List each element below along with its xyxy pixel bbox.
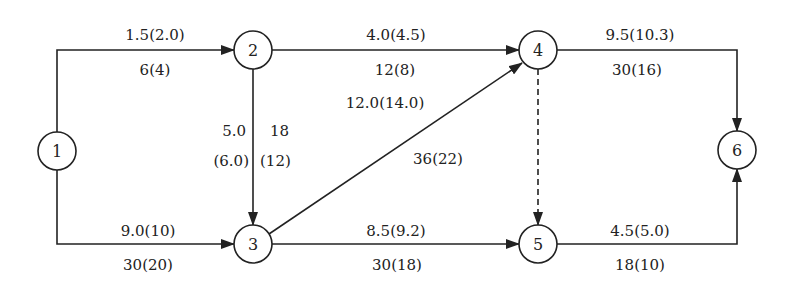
edge-5-6: 4.5(5.0) 18(10) bbox=[557, 169, 737, 274]
edge-2-4-top-label: 4.0(4.5) bbox=[366, 26, 425, 44]
edge-1-3: 9.0(10) 30(20) bbox=[57, 170, 234, 274]
edge-3-4-top-label: 12.0(14.0) bbox=[346, 94, 425, 112]
edge-2-4-bottom-label: 12(8) bbox=[375, 61, 415, 79]
edge-3-5: 8.5(9.2) 30(18) bbox=[272, 222, 519, 274]
edge-2-4: 4.0(4.5) 12(8) bbox=[272, 26, 519, 79]
node-1: 1 bbox=[38, 132, 76, 170]
edge-1-2-bottom-label: 6(4) bbox=[140, 61, 171, 79]
edge-4-6-bottom-label: 30(16) bbox=[612, 61, 662, 79]
edge-2-3-left-bottom-label: (6.0) bbox=[213, 152, 249, 170]
node-3-label: 3 bbox=[248, 235, 258, 254]
edge-2-3-right-top-label: 18 bbox=[270, 122, 289, 140]
edge-4-6-top-label: 9.5(10.3) bbox=[606, 26, 675, 44]
node-4-label: 4 bbox=[533, 41, 543, 60]
edge-5-6-bottom-label: 18(10) bbox=[615, 256, 665, 274]
node-2-label: 2 bbox=[248, 41, 258, 60]
edge-1-3-top-label: 9.0(10) bbox=[121, 222, 176, 240]
edge-3-4-bottom-label: 36(22) bbox=[413, 150, 463, 168]
node-3: 3 bbox=[234, 225, 272, 263]
edge-2-3-left-top-label: 5.0 bbox=[222, 122, 246, 140]
edge-1-2: 1.5(2.0) 6(4) bbox=[57, 26, 234, 132]
edge-4-6: 9.5(10.3) 30(16) bbox=[557, 26, 737, 131]
edge-2-3-right-bottom-label: (12) bbox=[260, 152, 291, 170]
node-6: 6 bbox=[718, 131, 756, 169]
network-diagram: 1.5(2.0) 6(4) 9.0(10) 30(20) 5.0 (6.0) 1… bbox=[0, 0, 790, 291]
edge-5-6-top-label: 4.5(5.0) bbox=[610, 222, 669, 240]
node-6-label: 6 bbox=[732, 141, 742, 160]
node-5: 5 bbox=[519, 225, 557, 263]
edge-3-5-bottom-label: 30(18) bbox=[372, 256, 422, 274]
node-1-label: 1 bbox=[52, 142, 62, 161]
edge-1-3-bottom-label: 30(20) bbox=[123, 256, 173, 274]
edge-1-2-top-label: 1.5(2.0) bbox=[125, 26, 184, 44]
node-4: 4 bbox=[519, 31, 557, 69]
node-5-label: 5 bbox=[533, 235, 543, 254]
edge-3-5-top-label: 8.5(9.2) bbox=[366, 222, 425, 240]
node-2: 2 bbox=[234, 31, 272, 69]
edge-2-3: 5.0 (6.0) 18 (12) bbox=[213, 69, 290, 225]
edge-3-4: 12.0(14.0) 36(22) bbox=[269, 63, 522, 234]
